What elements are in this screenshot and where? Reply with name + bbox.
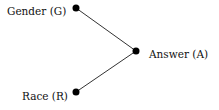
edge-gender-answer: [76, 8, 136, 51]
label-answer: Answer (A): [149, 48, 208, 60]
node-race: [73, 89, 80, 96]
label-gender: Gender (G): [7, 5, 66, 17]
label-race: Race (R): [22, 90, 68, 102]
edge-race-answer: [76, 51, 136, 92]
node-answer: [133, 48, 140, 55]
node-gender: [73, 5, 80, 12]
